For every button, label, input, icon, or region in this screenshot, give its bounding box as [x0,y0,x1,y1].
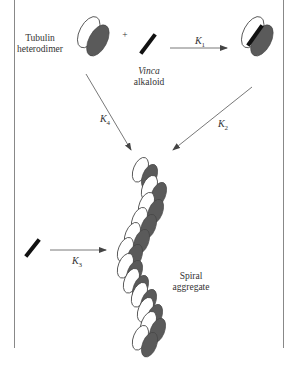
k3-symbol: K [72,255,79,266]
spiral-aggregate-label: Spiral aggregate [166,271,216,293]
tubulin-label-line1: Tubulin [12,33,68,44]
spiral-aggregate-icon [113,155,171,359]
plus-sign: + [120,30,130,41]
k4-label: K4 [95,113,115,129]
k3-label: K3 [67,255,87,271]
tubulin-vinca-complex-icon [235,13,279,60]
vinca-label-line1: Vinca [124,66,174,77]
k2-symbol: K [218,118,225,129]
vinca-alkaloid-label: Vinca alkaloid [124,66,174,88]
k2-label: K2 [213,118,233,134]
vinca-alkaloid-icon [142,36,154,52]
tubulin-vinca-binding-diagram: Tubulin heterodimer + Vinca alkaloid K1 … [0,0,292,372]
tubulin-heterodimer-icon [71,13,115,60]
k4-subscript: 4 [107,119,111,127]
tubulin-heterodimer-label: Tubulin heterodimer [12,33,68,55]
spiral-label-line2: aggregate [166,282,216,293]
k1-symbol: K [195,35,202,46]
free-vinca-alkaloid-icon [27,241,38,255]
k2-subscript: 2 [225,124,229,132]
vinca-label-line2: alkaloid [124,77,174,88]
k1-subscript: 1 [202,41,206,49]
spiral-label-line1: Spiral [166,271,216,282]
diagram-canvas [0,0,292,372]
k3-subscript: 3 [79,261,83,269]
k4-symbol: K [100,113,107,124]
k1-label: K1 [190,35,210,51]
tubulin-label-line2: heterodimer [12,44,68,55]
